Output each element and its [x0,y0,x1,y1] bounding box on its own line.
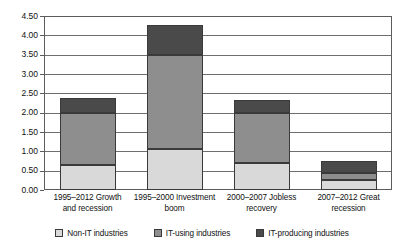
y-axis-tick-label: 3.50 [0,50,38,59]
y-axis-tick-label: 1.50 [0,128,38,137]
y-axis-tick-label: 4.00 [0,31,38,40]
x-axis-category-label-line: 2000–2007 Jobless [218,193,305,204]
x-axis-category-label: 2000–2007 Joblessrecovery [218,193,305,214]
x-axis-category-label: 2007–2012 Greatrecession [305,193,392,214]
bar-segment-it-using [321,173,377,181]
legend-label: Non-IT industries [67,229,128,238]
y-axis-tick-label: 4.50 [0,12,38,21]
bar-group [321,16,377,190]
legend-item: Non-IT industries [55,229,128,238]
bar-group [234,16,290,190]
legend-label: IT-producing industries [268,229,349,238]
legend-label: IT-using industries [166,229,231,238]
bar-segment-it-producing [147,25,203,55]
x-axis-category-label-line: 1995–2000 Investment [131,193,218,204]
x-axis-category-label: 1995–2000 Investmentboom [131,193,218,214]
bar-segment-it-producing [234,100,290,113]
bar-segment-it-producing [60,98,116,113]
bar-segment-non-it [60,165,116,190]
x-axis-category-label-line: recovery [218,204,305,215]
bar-segment-it-using [147,55,203,150]
x-axis-category-label-line: 1995–2012 Growth [44,193,131,204]
bar-segment-it-using [60,113,116,165]
bar-segment-non-it [147,149,203,190]
legend-swatch-it-producing [256,229,264,237]
legend-item: IT-producing industries [256,229,349,238]
legend-swatch-it-using [154,229,162,237]
bars-layer [44,16,392,190]
bar-segment-it-using [234,113,290,163]
x-axis-category-label-line: and recession [44,204,131,215]
bar-group [147,16,203,190]
bar-segment-non-it [321,180,377,190]
y-axis-tick-label: 1.00 [0,147,38,156]
x-axis-category-label-line: boom [131,204,218,215]
x-axis-category-label: 1995–2012 Growthand recession [44,193,131,214]
x-axis-labels: 1995–2012 Growthand recession1995–2000 I… [44,193,392,225]
y-axis-tick-mark [40,190,44,191]
bar-segment-non-it [234,163,290,190]
y-axis-tick-label: 2.00 [0,108,38,117]
bar-group [60,16,116,190]
legend-item: IT-using industries [154,229,231,238]
chart-legend: Non-IT industriesIT-using industriesIT-p… [0,226,404,240]
y-axis-tick-label: 3.00 [0,70,38,79]
y-axis-tick-label: 2.50 [0,89,38,98]
y-axis-tick-label: 0.00 [0,186,38,195]
y-axis: 4.504.003.503.002.502.001.501.000.500.00 [0,16,40,190]
x-axis-category-label-line: recession [305,204,392,215]
y-axis-tick-label: 0.50 [0,166,38,175]
bar-segment-it-producing [321,161,377,173]
stacked-bar-chart: 4.504.003.503.002.502.001.501.000.500.00… [0,0,404,246]
x-axis-category-label-line: 2007–2012 Great [305,193,392,204]
legend-swatch-non-it [55,229,63,237]
